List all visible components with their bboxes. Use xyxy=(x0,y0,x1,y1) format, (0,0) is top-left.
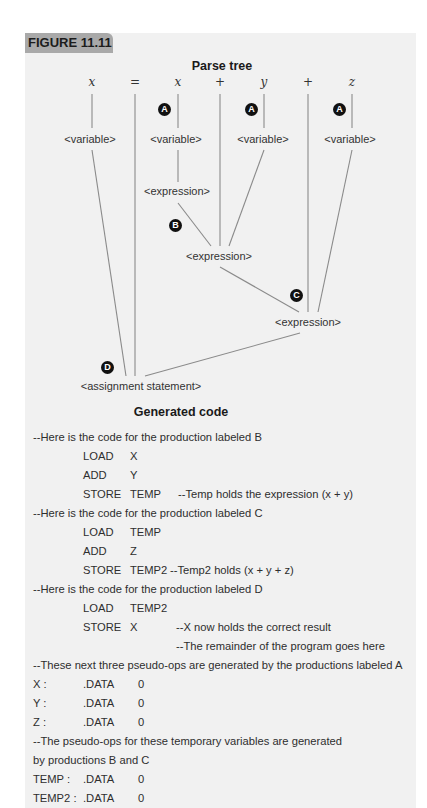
badge-c-icon: C xyxy=(290,289,303,302)
node-expression: <expression> xyxy=(144,185,210,197)
data-label: TEMP2 : xyxy=(33,789,77,808)
code-comment: --Here is the code for the production la… xyxy=(33,428,262,447)
token-z: z xyxy=(349,75,355,89)
data-label: X : xyxy=(33,675,47,694)
code-note: --Temp holds the expression (x + y) xyxy=(178,485,353,504)
node-expression: <expression> xyxy=(186,250,252,262)
code-comment: --The pseudo-ops for these temporary var… xyxy=(33,732,342,751)
code-arg: TEMP xyxy=(130,485,161,504)
token-x: x xyxy=(175,75,182,89)
code-comment: --These next three pseudo-ops are genera… xyxy=(33,656,402,675)
code-op: STORE xyxy=(83,561,121,580)
node-variable: <variable> xyxy=(237,133,288,145)
token-y: y xyxy=(261,75,268,89)
code-comment: --Here is the code for the production la… xyxy=(33,580,262,599)
data-directive: .DATA xyxy=(83,770,114,789)
code-arg: Z xyxy=(130,542,137,561)
data-directive: .DATA xyxy=(83,789,114,808)
badge-b-icon: B xyxy=(169,219,182,232)
node-assignment-statement: <assignment statement> xyxy=(81,380,201,392)
data-label: Y : xyxy=(33,694,46,713)
code-arg: TEMP2 xyxy=(130,561,167,580)
data-value: 0 xyxy=(138,694,144,713)
data-value: 0 xyxy=(138,770,144,789)
code-note: --The remainder of the program goes here xyxy=(176,637,385,656)
node-expression: <expression> xyxy=(275,316,341,328)
token-plus-1: + xyxy=(215,75,225,89)
token-x-lhs: x xyxy=(89,75,96,89)
code-note: --Temp2 holds (x + y + z) xyxy=(170,561,294,580)
data-directive: .DATA xyxy=(83,713,114,732)
data-directive: .DATA xyxy=(83,675,114,694)
code-arg: TEMP xyxy=(130,523,161,542)
code-op: ADD xyxy=(83,542,107,561)
code-op: LOAD xyxy=(83,523,113,542)
parse-tree-edges xyxy=(0,0,427,410)
code-op: ADD xyxy=(83,466,107,485)
badge-a-icon: A xyxy=(158,103,171,116)
code-comment: --Here is the code for the production la… xyxy=(33,504,262,523)
token-plus-2: + xyxy=(303,75,313,89)
data-value: 0 xyxy=(138,675,144,694)
data-label: TEMP : xyxy=(33,770,70,789)
code-op: LOAD xyxy=(83,447,113,466)
badge-a-icon: A xyxy=(333,103,346,116)
code-op: LOAD xyxy=(83,599,113,618)
code-comment: by productions B and C xyxy=(33,751,149,770)
code-arg: Y xyxy=(130,466,137,485)
code-op: STORE xyxy=(83,618,121,637)
node-variable: <variable> xyxy=(150,133,201,145)
node-variable: <variable> xyxy=(324,133,375,145)
code-arg: TEMP2 xyxy=(130,599,167,618)
code-arg: X xyxy=(130,447,137,466)
token-equals: = xyxy=(130,75,140,89)
data-value: 0 xyxy=(138,789,144,808)
code-op: STORE xyxy=(83,485,121,504)
badge-d-icon: D xyxy=(101,361,114,374)
code-arg: X xyxy=(130,618,137,637)
data-directive: .DATA xyxy=(83,694,114,713)
data-label: Z : xyxy=(33,713,46,732)
data-value: 0 xyxy=(138,713,144,732)
code-note: --X now holds the correct result xyxy=(176,618,331,637)
badge-a-icon: A xyxy=(245,103,258,116)
generated-code-title: Generated code xyxy=(134,405,228,419)
node-variable: <variable> xyxy=(64,133,115,145)
